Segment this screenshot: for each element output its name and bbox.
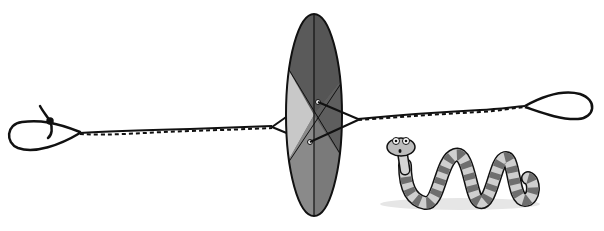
left-loop <box>9 106 80 150</box>
illustration-canvas: button whirligig spinner on twisted stri… <box>0 0 604 231</box>
right-loop <box>525 93 592 119</box>
whirligig-illustration <box>0 0 604 231</box>
spinning-disc <box>280 10 350 230</box>
snake <box>380 138 540 211</box>
string-right <box>358 106 525 120</box>
string-left <box>80 126 272 135</box>
